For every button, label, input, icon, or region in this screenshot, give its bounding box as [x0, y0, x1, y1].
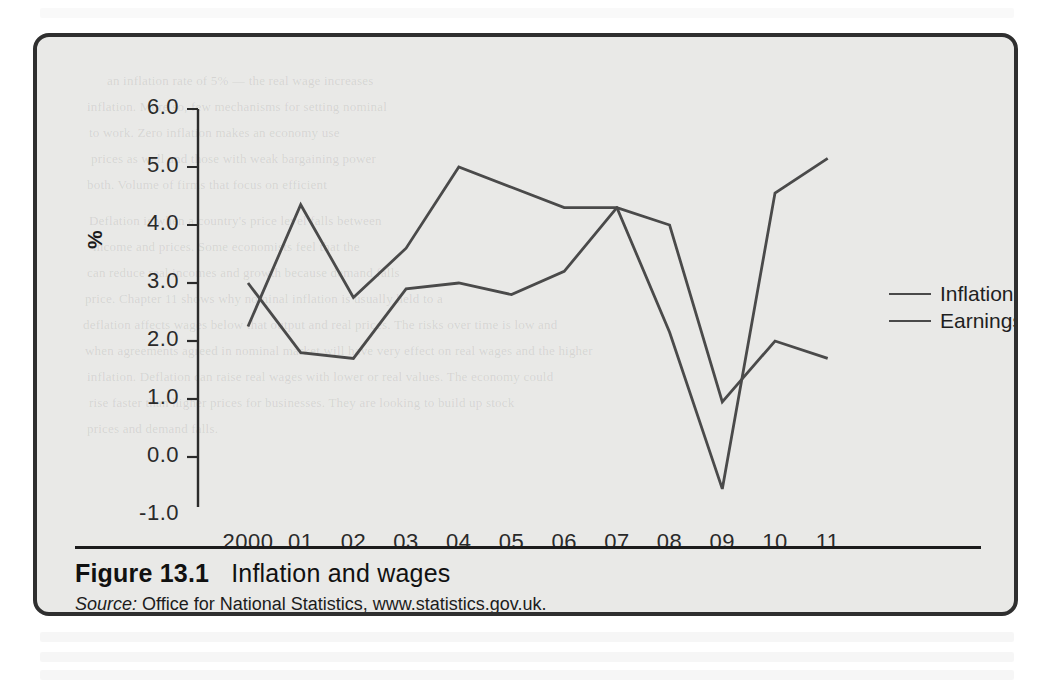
legend-label: Earnings [940, 309, 1018, 333]
legend-item-inflation: Inflation [889, 280, 1018, 307]
y-axis-tick-label: 0.0 [121, 442, 179, 468]
caption-divider [75, 546, 981, 549]
figure-number: Figure 13.1 [75, 559, 209, 588]
x-axis-tick-label: 08 [647, 529, 693, 555]
source-text: Office for National Statistics, www.stat… [142, 594, 546, 614]
legend-item-earnings: Earnings [889, 307, 1018, 334]
x-axis-tick-label: 04 [436, 529, 482, 555]
x-axis-tick-label: 03 [383, 529, 429, 555]
y-axis-tick-label: 3.0 [121, 268, 179, 294]
y-axis-tick-label: 4.0 [121, 210, 179, 236]
x-axis-tick-label: 10 [752, 529, 798, 555]
page-text-bleed-strip [40, 632, 1014, 642]
legend-label: Inflation [940, 282, 1014, 306]
legend-line-swatch [889, 293, 931, 295]
page-text-bleed-strip [40, 8, 1014, 18]
y-axis-tick-label: 2.0 [121, 326, 179, 352]
x-axis-tick-label: 11 [805, 529, 851, 555]
chart-svg [37, 37, 1018, 507]
page-text-bleed-strip [40, 670, 1014, 680]
figure-caption: Figure 13.1 Inflation and wages [75, 559, 450, 588]
x-axis-tick-label: 05 [489, 529, 535, 555]
y-axis-tick-label: 5.0 [121, 152, 179, 178]
x-axis-tick-label: 01 [278, 529, 324, 555]
x-axis-tick-label: 02 [330, 529, 376, 555]
chart-plot-area: % 6.05.04.03.02.01.00.0-1.0 200001020304… [37, 37, 1018, 507]
series-line-earnings [248, 158, 828, 489]
chart-axes [187, 109, 846, 507]
legend-line-swatch [889, 320, 931, 322]
figure-source: Source: Office for National Statistics, … [75, 594, 547, 615]
y-axis-tick-label: 1.0 [121, 384, 179, 410]
x-axis-tick-label: 06 [541, 529, 587, 555]
chart-series [248, 158, 828, 489]
y-axis-label: % [83, 230, 107, 249]
x-axis-tick-label: 09 [699, 529, 745, 555]
figure-box: an inflation rate of 5% — the real wage … [33, 33, 1018, 616]
chart-legend: InflationEarnings [889, 280, 1018, 334]
x-axis-tick-label: 07 [594, 529, 640, 555]
figure-title: Inflation and wages [231, 559, 450, 588]
y-axis-tick-label: 6.0 [121, 94, 179, 120]
series-line-inflation [248, 208, 828, 402]
source-label: Source: [75, 594, 137, 614]
page-text-bleed-strip [40, 652, 1014, 662]
x-axis-tick-label: 2000 [211, 529, 285, 555]
y-axis-tick-label: -1.0 [121, 500, 179, 526]
